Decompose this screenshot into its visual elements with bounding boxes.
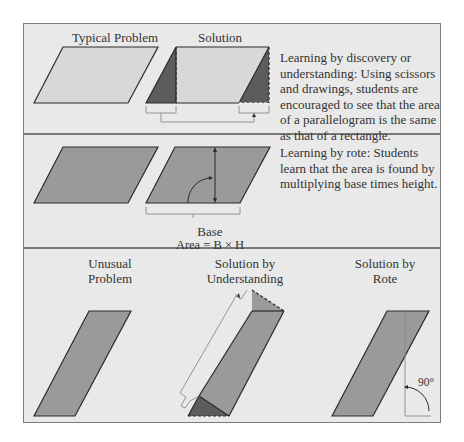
bracket-left: [146, 106, 176, 113]
base-bracket: [146, 207, 240, 214]
typical-parallelogram: [34, 47, 158, 103]
rote-right-parallelogram: [146, 147, 270, 203]
rote-angle-arc: [405, 387, 429, 411]
move-arrow: [161, 113, 254, 122]
bracket-right: [239, 106, 269, 113]
unusual-parallelogram: [34, 311, 131, 416]
diagram-figures: [0, 0, 464, 442]
rote-left-parallelogram: [34, 147, 158, 203]
rote-parallelogram: [332, 311, 429, 416]
